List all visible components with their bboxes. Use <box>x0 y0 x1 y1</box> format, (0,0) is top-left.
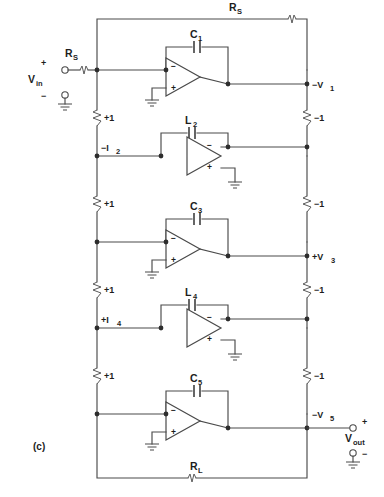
node-left-rail-2 <box>95 154 100 159</box>
stage-2: − + <box>95 127 310 188</box>
label-c5-sub: 5 <box>198 378 202 387</box>
opamp-5-inverting-sign: − <box>171 405 176 415</box>
label-left-resistor-4: +1 <box>104 371 114 381</box>
output-terminal-plus[interactable] <box>350 425 356 431</box>
label-node-v3-sub: 3 <box>331 256 335 265</box>
label-rl: R <box>190 460 198 472</box>
stage-3: − + <box>95 213 310 278</box>
label-node-v1-sub: 1 <box>330 84 334 93</box>
label-c1: C <box>190 28 198 40</box>
opamp-3-noninverting-sign: + <box>171 255 176 265</box>
label-vout: V <box>345 432 352 444</box>
node-left-rail-5 <box>95 412 100 417</box>
label-node-i4-sub: 4 <box>117 319 122 328</box>
label-node-v5-sub: 5 <box>330 414 334 423</box>
schematic-canvas: R S R L +1 +1 +1 +1 <box>0 0 384 497</box>
label-node-i4: +I <box>101 315 109 325</box>
label-node-i2: −I <box>101 143 109 153</box>
label-l2: L <box>185 114 192 126</box>
label-l4: L <box>185 286 192 298</box>
resistor-rs-top-symbol <box>288 15 296 23</box>
label-right-resistor-3: −1 <box>314 285 324 295</box>
opamp-4-inverting-sign: − <box>207 312 212 322</box>
opamp-4-body <box>187 309 221 347</box>
figure-label: (c) <box>33 441 45 452</box>
label-c5: C <box>190 372 198 384</box>
left-rail-resistor-3 <box>93 282 101 298</box>
label-l2-sub: 2 <box>193 120 197 129</box>
label-node-v5: −V <box>312 410 323 420</box>
label-vout-sub: out <box>353 438 365 447</box>
node-stage-1-input <box>164 68 169 73</box>
label-left-resistor-3: +1 <box>104 285 114 295</box>
resistor-rs-series-symbol <box>80 66 88 74</box>
opamp-1-noninverting-sign: + <box>171 83 176 93</box>
label-c3: C <box>190 200 198 212</box>
label-right-resistor-2: −1 <box>314 199 324 209</box>
left-rail-resistor-4 <box>93 368 101 384</box>
node-stage-2-input <box>159 154 164 159</box>
left-rail-resistor-1 <box>93 110 101 126</box>
label-c3-sub: 3 <box>198 206 202 215</box>
label-c1-sub: 1 <box>198 34 202 43</box>
circuit-diagram: R S R L +1 +1 +1 +1 <box>0 0 384 497</box>
label-rs-series-sub: S <box>73 53 78 62</box>
label-vin: V <box>28 73 35 85</box>
label-rl-sub: L <box>198 466 203 475</box>
label-node-i2-sub: 2 <box>116 147 120 156</box>
node-stage-1-output <box>226 82 231 87</box>
node-right-rail-1 <box>305 82 310 87</box>
label-rs-top: R <box>229 1 237 13</box>
right-rail-resistor-3 <box>303 282 311 298</box>
label-left-resistor-2: +1 <box>104 199 114 209</box>
resistor-rl-symbol <box>188 474 196 482</box>
opamp-2-inverting-sign: − <box>207 140 212 150</box>
opamp-1-inverting-sign: − <box>171 61 176 71</box>
output-minus-sign: − <box>362 449 367 459</box>
node-stage-5-input <box>164 412 169 417</box>
opamp-3-inverting-sign: − <box>171 233 176 243</box>
opamp-2-noninverting-sign: + <box>207 162 212 172</box>
label-rs-top-sub: S <box>237 7 242 16</box>
right-rail-resistor-2 <box>303 196 311 212</box>
node-right-rail-2 <box>305 145 310 150</box>
input-minus-sign: − <box>41 91 46 101</box>
right-rail-resistor-4 <box>303 368 311 384</box>
node-left-rail-4 <box>95 326 100 331</box>
node-stage-3-output <box>226 254 231 259</box>
input-terminal-minus[interactable] <box>62 92 68 98</box>
opamp-2-body <box>187 137 221 175</box>
left-rail-resistor-2 <box>93 196 101 212</box>
stage-5: − + <box>95 385 310 450</box>
node-right-rail-4 <box>305 317 310 322</box>
node-left-rail-1 <box>95 68 100 73</box>
output-terminal-minus[interactable] <box>350 450 356 456</box>
input-plus-sign: + <box>41 58 46 68</box>
node-stage-3-input <box>164 240 169 245</box>
stage-4: − + <box>95 299 310 360</box>
output-plus-sign: + <box>362 417 367 427</box>
opamp-4-noninverting-sign: + <box>207 334 212 344</box>
stage-1: − + <box>95 41 310 106</box>
label-left-resistor-1: +1 <box>104 113 114 123</box>
node-stage-2-output <box>226 145 231 150</box>
right-rail-resistor-1 <box>303 110 311 126</box>
label-right-resistor-4: −1 <box>314 371 324 381</box>
label-vin-sub: in <box>36 79 43 88</box>
node-stage-4-output <box>226 317 231 322</box>
opamp-5-noninverting-sign: + <box>171 427 176 437</box>
label-rs-series: R <box>65 47 73 59</box>
label-l4-sub: 4 <box>193 292 198 301</box>
node-right-rail-3 <box>305 254 310 259</box>
node-stage-5-output <box>226 426 231 431</box>
input-source <box>58 66 97 110</box>
input-terminal-plus[interactable] <box>62 67 68 73</box>
label-node-v3: +V <box>312 252 323 262</box>
node-left-rail-3 <box>95 240 100 245</box>
label-node-v1: −V <box>312 80 323 90</box>
node-stage-4-input <box>159 326 164 331</box>
label-right-resistor-1: −1 <box>314 113 324 123</box>
